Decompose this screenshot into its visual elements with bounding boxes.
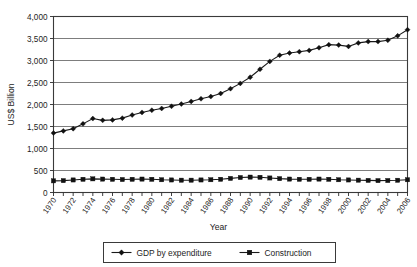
data-point-marker	[307, 48, 312, 53]
data-point-marker	[51, 131, 56, 136]
data-point-marker	[101, 177, 105, 181]
data-point-marker	[219, 177, 223, 181]
data-point-marker	[140, 177, 144, 181]
data-point-marker	[61, 179, 65, 183]
x-tick-label: 1988	[218, 196, 235, 215]
x-tick-label: 1984	[179, 195, 197, 215]
data-point-marker	[238, 175, 242, 179]
x-axis-tick-labels: 1970197219741976197819801982198419861988…	[41, 195, 412, 215]
data-point-marker	[61, 128, 66, 133]
data-point-marker	[120, 177, 124, 181]
data-point-marker	[71, 178, 75, 182]
data-point-marker	[120, 116, 125, 121]
y-tick-label: 4,000	[27, 13, 48, 22]
x-tick-label: 1994	[277, 195, 295, 215]
data-point-marker	[228, 86, 233, 91]
x-tick-label: 1996	[297, 196, 314, 215]
data-point-marker	[90, 116, 95, 121]
data-point-marker	[405, 178, 409, 182]
data-point-marker	[110, 117, 115, 122]
x-tick-label: 1974	[80, 195, 98, 215]
y-tick-label: 500	[34, 167, 48, 176]
x-tick-label: 1980	[139, 195, 157, 215]
series-line	[54, 30, 408, 133]
data-point-marker	[346, 44, 351, 49]
x-tick-label: 1976	[100, 196, 117, 215]
x-tick-label: 1982	[159, 196, 176, 215]
data-point-marker	[317, 177, 321, 181]
data-point-marker	[238, 81, 243, 86]
x-tick-label: 1972	[61, 196, 78, 215]
x-tick-label: 1998	[316, 196, 333, 215]
x-tick-label: 1978	[120, 196, 137, 215]
x-axis-title: Year	[210, 222, 228, 232]
data-point-marker	[297, 49, 302, 54]
data-point-marker	[189, 99, 194, 104]
data-point-marker	[51, 179, 55, 183]
data-series-group	[51, 27, 410, 183]
line-chart: 4,0003,5003,0002,5002,0001,5001,0005000 …	[0, 0, 417, 267]
y-tick-label: 1,500	[27, 123, 48, 132]
data-point-marker	[81, 121, 86, 126]
y-tick-label: 3,000	[27, 57, 48, 66]
gridlines	[54, 17, 408, 171]
data-point-marker	[228, 176, 232, 180]
x-tick-label: 1990	[238, 195, 256, 215]
x-tick-label: 2002	[356, 196, 373, 215]
data-point-marker	[287, 177, 291, 181]
x-tick-label: 1970	[41, 195, 59, 215]
data-point-marker	[366, 178, 370, 182]
y-axis-tick-labels: 4,0003,5003,0002,5002,0001,5001,0005000	[27, 13, 48, 198]
legend-items: GDP by expenditureConstruction	[112, 248, 312, 258]
legend-label: GDP by expenditure	[137, 248, 213, 258]
y-axis-title: US$ Billion	[6, 83, 16, 125]
data-point-marker	[130, 113, 135, 118]
data-point-marker	[248, 175, 252, 179]
y-tick-label: 0	[43, 189, 48, 198]
data-point-marker	[287, 51, 292, 56]
data-point-marker	[179, 102, 184, 107]
data-point-marker	[396, 178, 400, 182]
data-point-marker	[130, 177, 134, 181]
data-point-marker	[91, 177, 95, 181]
data-point-marker	[386, 178, 390, 182]
chart-legend: GDP by expenditureConstruction	[104, 243, 336, 263]
square-marker-icon	[247, 250, 252, 255]
data-point-marker	[209, 178, 213, 182]
data-point-marker	[356, 40, 361, 45]
x-tick-label: 1992	[257, 196, 274, 215]
data-point-marker	[337, 178, 341, 182]
data-point-marker	[199, 96, 204, 101]
data-point-marker	[336, 43, 341, 48]
data-point-marker	[268, 176, 272, 180]
data-point-marker	[189, 178, 193, 182]
data-point-marker	[199, 178, 203, 182]
data-point-marker	[327, 177, 331, 181]
data-point-marker	[326, 42, 331, 47]
data-point-marker	[395, 33, 400, 38]
data-point-marker	[150, 177, 154, 181]
data-point-marker	[140, 110, 145, 115]
series-gdp-by-expenditure	[51, 27, 410, 135]
data-point-marker	[149, 108, 154, 113]
data-point-marker	[366, 39, 371, 44]
data-point-marker	[160, 178, 164, 182]
data-point-marker	[278, 177, 282, 181]
x-tick-label: 2006	[395, 196, 412, 215]
data-point-marker	[218, 91, 223, 96]
y-tick-label: 2,000	[27, 101, 48, 110]
x-tick-label: 2004	[375, 195, 393, 215]
y-tick-label: 3,500	[27, 35, 48, 44]
data-point-marker	[405, 27, 410, 32]
chart-container: 4,0003,5003,0002,5002,0001,5001,0005000 …	[0, 0, 417, 267]
data-point-marker	[307, 177, 311, 181]
data-point-marker	[100, 118, 105, 123]
legend-label: Construction	[265, 248, 312, 258]
data-point-marker	[356, 178, 360, 182]
data-point-marker	[317, 45, 322, 50]
data-point-marker	[376, 39, 381, 44]
y-tick-label: 1,000	[27, 145, 48, 154]
data-point-marker	[277, 53, 282, 58]
x-tick-label: 2000	[336, 195, 354, 215]
data-point-marker	[376, 179, 380, 183]
